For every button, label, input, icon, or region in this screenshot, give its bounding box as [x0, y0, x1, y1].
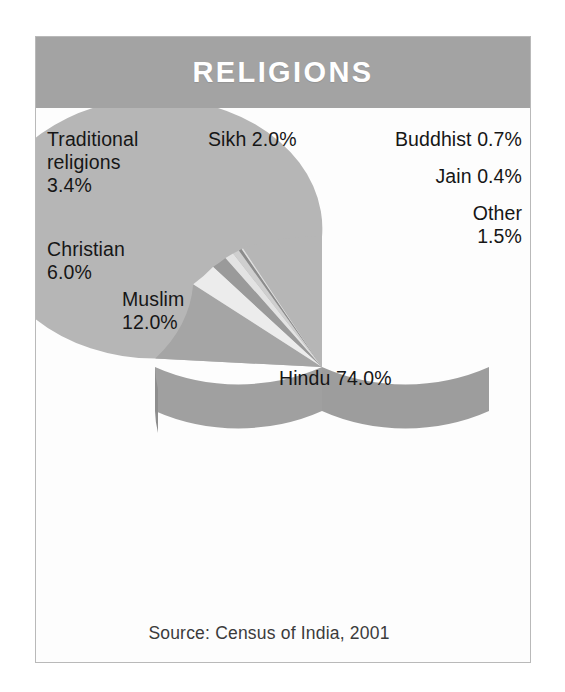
label-christian: Christian 6.0% [47, 238, 207, 284]
label-other: Other 1.5% [352, 202, 522, 248]
chart-figure: RELIGIONS [35, 36, 531, 663]
source-note: Source: Census of India, 2001 [36, 623, 530, 644]
label-muslim: Muslim 12.0% [122, 288, 272, 334]
page-title: RELIGIONS [192, 58, 373, 87]
label-traditional-religions: Traditional religions 3.4% [47, 128, 207, 197]
label-jain: Jain 0.4% [332, 165, 522, 188]
chart-title-banner: RELIGIONS [36, 37, 530, 108]
label-hindu: Hindu 74.0% [279, 367, 469, 390]
label-buddhist: Buddhist 0.7% [332, 128, 522, 151]
pie-chart-plot-area: Traditional religions 3.4% Christian 6.0… [36, 108, 530, 664]
